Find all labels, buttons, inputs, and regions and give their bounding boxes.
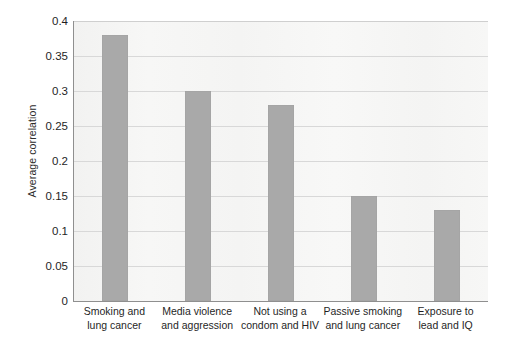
x-tick-label-line: Not using a [239,305,322,319]
y-tick-label: 0.15 [32,190,68,202]
x-tick-label: Not using acondom and HIV [239,305,322,332]
x-axis-tick-labels: Smoking andlung cancerMedia violenceand … [73,305,487,344]
y-tick-label: 0.4 [32,15,68,27]
y-tick-label: 0 [32,295,68,307]
y-tick-label: 0.35 [32,50,68,62]
x-tick-label: Smoking andlung cancer [73,305,156,332]
x-tick-label-line: and aggression [156,319,239,333]
x-tick-label-line: lung cancer [73,319,156,333]
gridline [74,91,488,92]
y-tick-label: 0.25 [32,120,68,132]
x-tick-label: Passive smokingand lung cancer [321,305,404,332]
x-tick-label-line: and lung cancer [321,319,404,333]
bar [268,105,294,301]
x-tick-label-line: condom and HIV [239,319,322,333]
plot-area [73,21,488,302]
bar [102,35,128,301]
y-tick-label: 0.05 [32,260,68,272]
chart-page: Average correlation 00.050.10.150.20.250… [0,0,510,344]
y-axis-tick-labels: 00.050.10.150.20.250.30.350.4 [32,0,68,344]
x-tick-label-line: Exposure to [404,305,487,319]
bar [185,91,211,301]
y-tick-label: 0.2 [32,155,68,167]
gridline [74,56,488,57]
x-tick-label-line: Smoking and [73,305,156,319]
x-tick-label: Media violenceand aggression [156,305,239,332]
y-tick-label: 0.3 [32,85,68,97]
x-tick-label-line: lead and IQ [404,319,487,333]
gridline [74,21,488,22]
y-tick-label: 0.1 [32,225,68,237]
x-tick-label-line: Media violence [156,305,239,319]
bar [351,196,377,301]
bar [434,210,460,301]
x-tick-label: Exposure tolead and IQ [404,305,487,332]
x-tick-label-line: Passive smoking [321,305,404,319]
